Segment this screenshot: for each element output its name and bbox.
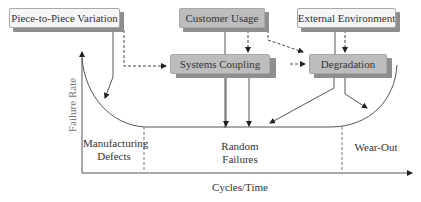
box-systems-coupling: Systems Coupling [170,54,270,74]
x-axis-label: Cycles/Time [190,181,290,194]
box-piece-variation: Piece-to-Piece Variation [9,8,120,28]
region-manufacturing: Manufacturing Defects [83,137,145,163]
box-degradation: Degradation [309,54,387,74]
region-wearout: Wear-Out [346,141,406,154]
box-external-environment: External Environment [297,8,396,28]
arrow-piece-to-curve [105,30,113,98]
arrow-degradation-to-wearout [345,78,367,108]
arrow-degradation-to-random [270,78,334,123]
arrow-piece-to-coupling [124,30,166,66]
region-random-line1: Random [205,140,275,153]
region-random-line2: Failures [205,153,275,166]
arrow-customer-to-degradation-2 [268,40,303,52]
box-customer-usage: Customer Usage [179,8,265,28]
region-random: Random Failures [205,140,275,166]
region-manufacturing-line2: Defects [83,150,145,163]
y-axis-label: Failure Rate [66,78,78,132]
region-manufacturing-line1: Manufacturing [83,137,145,150]
